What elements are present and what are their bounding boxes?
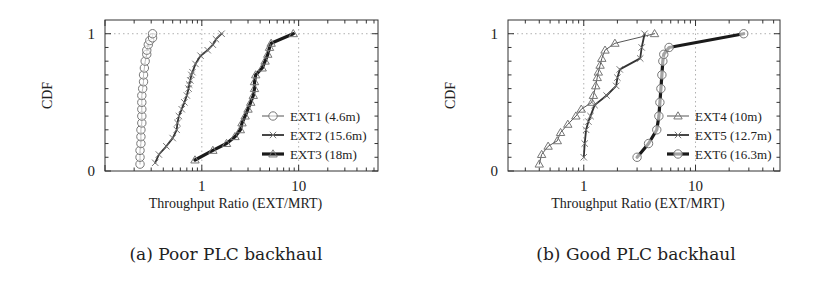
y-axis-label: CDF — [443, 82, 458, 109]
legend-marker — [674, 150, 682, 158]
x-tick-label: 10 — [688, 178, 703, 194]
data-point — [197, 52, 203, 58]
data-point — [653, 126, 661, 134]
legend-label: EXT4 (10m) — [695, 109, 762, 124]
data-point — [603, 92, 609, 98]
data-point — [658, 71, 666, 79]
y-tick-label: 0 — [491, 163, 499, 179]
data-point — [650, 30, 658, 37]
data-point — [148, 30, 156, 38]
legend-item: EXT1 (4.6m) — [262, 109, 360, 124]
x-tick-label: 1 — [198, 178, 206, 194]
data-point — [601, 46, 609, 53]
x-axis-label: Throughput Ratio (EXT/MRT) — [149, 196, 323, 212]
x-axis-label: Throughput Ratio (EXT/MRT) — [551, 196, 725, 212]
data-point — [152, 160, 158, 166]
data-point — [656, 98, 664, 106]
legend-label: EXT1 (4.6m) — [290, 109, 360, 124]
legend-label: EXT3 (18m) — [290, 147, 357, 162]
data-point — [633, 153, 641, 161]
data-point — [740, 30, 748, 38]
series-line — [155, 34, 221, 163]
legend-label: EXT6 (16.3m) — [695, 147, 772, 162]
subfigure-caption: (b) Good PLC backhaul — [536, 244, 735, 264]
subfigure-caption: (a) Poor PLC backhaul — [129, 244, 322, 264]
series-ext1 — [136, 30, 157, 169]
data-point — [655, 112, 663, 120]
data-point — [169, 135, 175, 141]
data-point — [644, 139, 652, 147]
chart-good-plc-backhaul: 11001Throughput Ratio (EXT/MRT)CDFEXT4 (… — [443, 20, 780, 264]
y-axis-label: CDF — [40, 82, 55, 109]
y-tick-label: 0 — [88, 163, 96, 179]
legend-label: EXT5 (12.7m) — [695, 128, 772, 143]
y-tick-label: 1 — [88, 26, 96, 42]
series-ext2 — [152, 31, 225, 166]
legend-item: EXT5 (12.7m) — [667, 128, 772, 143]
y-tick-label: 1 — [491, 26, 499, 42]
legend-item: EXT6 (16.3m) — [667, 147, 772, 162]
legend-item: EXT4 (10m) — [667, 109, 762, 124]
legend: EXT1 (4.6m)EXT2 (15.6m)EXT3 (18m) — [262, 109, 367, 162]
legend: EXT4 (10m)EXT5 (12.7m)EXT6 (16.3m) — [667, 109, 772, 162]
data-point — [665, 43, 673, 51]
legend-item: EXT3 (18m) — [262, 147, 357, 162]
legend-marker — [674, 112, 682, 119]
data-point — [218, 31, 224, 37]
chart-poor-plc-backhaul: 11001Throughput Ratio (EXT/MRT)CDFEXT1 (… — [40, 20, 378, 264]
data-point — [657, 84, 665, 92]
x-tick-label: 10 — [291, 178, 306, 194]
legend-item: EXT2 (15.6m) — [262, 128, 367, 143]
x-tick-label: 1 — [580, 178, 588, 194]
series-ext4 — [535, 30, 659, 168]
figure: 11001Throughput Ratio (EXT/MRT)CDFEXT1 (… — [0, 0, 816, 286]
data-point — [163, 143, 169, 149]
data-point — [544, 142, 552, 149]
legend-marker — [269, 112, 277, 120]
legend-label: EXT2 (15.6m) — [290, 128, 367, 143]
